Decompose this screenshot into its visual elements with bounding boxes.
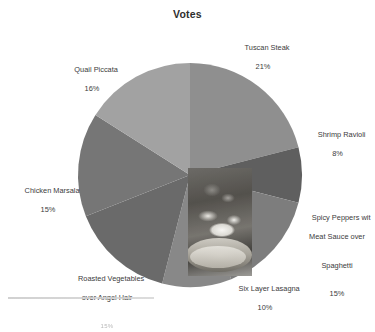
slice-label-text: Six Layer Lasagna	[239, 284, 300, 293]
slice-label-text: Quail Piccata	[74, 65, 118, 74]
slice-label-text: Roasted Vegetables	[78, 274, 144, 283]
slice-label-percent: 8%	[300, 149, 375, 159]
food-photo-overlay	[188, 168, 252, 276]
bottom-rule	[8, 297, 154, 299]
slice-label-chicken-marsala: Chicken Marsala 15%	[2, 176, 94, 234]
slice-label-percent: 15%	[2, 205, 94, 215]
slice-label-text-2: Meat Sauce over	[296, 232, 375, 242]
slice-label-six-layer-lasagna: Six Layer Lasagna 10%	[216, 274, 314, 332]
slice-label-shrimp-ravioli: Shrimp Ravioli 8%	[300, 120, 375, 178]
slice-label-text: Chicken Marsala	[25, 186, 80, 195]
slice-label-percent: 21%	[214, 62, 312, 72]
slice-label-percent: 15%	[52, 322, 162, 332]
slice-label-percent: 16%	[44, 84, 140, 94]
slice-label-tuscan-steak: Tuscan Steak 21%	[214, 33, 312, 91]
slice-label-text-3: Spaghetti	[296, 261, 375, 271]
slice-label-text: Spicy Peppers wit	[312, 213, 371, 222]
slice-label-quail-piccata: Quail Piccata 16%	[44, 55, 140, 113]
slice-label-percent: 10%	[216, 303, 314, 313]
slice-label-text: Shrimp Ravioli	[318, 130, 366, 139]
food-photo-plate-inner	[190, 246, 246, 268]
slice-label-text: Tuscan Steak	[245, 43, 290, 52]
